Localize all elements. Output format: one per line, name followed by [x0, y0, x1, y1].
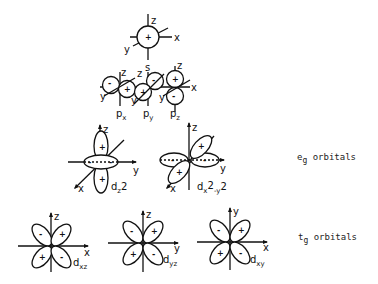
px-label: px: [116, 108, 127, 122]
dyz-orbital: - + + - z y dyz: [108, 209, 180, 272]
s-axis-z: z: [151, 15, 156, 26]
svg-text:+: +: [99, 143, 106, 152]
svg-text:-: -: [171, 156, 174, 165]
dx2-y2-orbital: - - + + z y x dx2-y2: [160, 122, 227, 195]
svg-text:y: y: [220, 163, 226, 174]
svg-text:-: -: [88, 158, 91, 167]
svg-text:z: z: [192, 122, 197, 133]
svg-text:-: -: [203, 156, 206, 165]
eg-orbitals-label: eg orbitals: [297, 152, 356, 165]
svg-text:-: -: [39, 230, 42, 239]
svg-text:y: y: [133, 165, 139, 176]
s-axis-y: y: [124, 44, 130, 55]
svg-text:z: z: [54, 211, 59, 222]
svg-text:x: x: [263, 242, 269, 253]
dz2-label: dz2: [111, 181, 127, 195]
dxy-label: dxy: [250, 254, 265, 268]
svg-text:-: -: [239, 249, 242, 258]
dxz-orbital: - + + - z x dxz: [18, 211, 90, 272]
svg-text:+: +: [59, 230, 66, 239]
dz2-orbital: + + - - z y x dz2: [68, 124, 139, 195]
svg-text:z: z: [121, 67, 126, 78]
svg-text:-: -: [109, 158, 112, 167]
svg-text:-: -: [60, 253, 63, 262]
svg-text:-: -: [172, 92, 175, 101]
svg-text:y: y: [174, 243, 180, 254]
pz-orbital: + - z y pz: [159, 60, 190, 122]
pz-label: pz: [170, 108, 180, 122]
dyz-label: dyz: [163, 254, 178, 268]
svg-text:z: z: [103, 124, 108, 135]
svg-text:+: +: [176, 168, 183, 177]
svg-text:+: +: [99, 175, 106, 184]
dxy-orbital: - + + - y x dxy: [197, 206, 269, 270]
svg-text:+: +: [172, 75, 179, 84]
py-label: py: [143, 108, 154, 122]
dx2-y2-label: dx2-y2: [197, 180, 227, 195]
svg-text:x: x: [84, 247, 90, 258]
s-label: s: [145, 62, 150, 73]
svg-text:+: +: [124, 85, 131, 94]
svg-text:-: -: [152, 76, 155, 85]
svg-text:-: -: [217, 226, 220, 235]
s-axis-x: x: [174, 32, 180, 43]
svg-text:+: +: [238, 226, 245, 235]
svg-text:y: y: [100, 91, 106, 102]
svg-text:y: y: [159, 92, 165, 103]
svg-text:y: y: [131, 95, 137, 106]
svg-text:+: +: [217, 249, 224, 258]
svg-text:+: +: [151, 227, 158, 236]
svg-text:-: -: [130, 227, 133, 236]
s-sign: +: [145, 33, 152, 42]
svg-text:z: z: [177, 60, 182, 71]
svg-text:x: x: [170, 183, 176, 194]
svg-text:z: z: [146, 209, 151, 220]
p-axis-x: x: [191, 82, 197, 93]
svg-text:+: +: [198, 142, 205, 151]
svg-text:z: z: [137, 68, 142, 79]
svg-text:+: +: [130, 250, 137, 259]
s-orbital: + z x y s: [124, 14, 180, 73]
svg-text:-: -: [152, 250, 155, 259]
svg-text:-: -: [108, 79, 111, 88]
svg-text:y: y: [233, 206, 239, 217]
svg-text:+: +: [140, 88, 147, 97]
svg-text:x: x: [78, 183, 84, 194]
tg-orbitals-label: tg orbitals: [298, 232, 357, 245]
dxz-label: dxz: [73, 257, 88, 271]
svg-text:+: +: [39, 253, 46, 262]
